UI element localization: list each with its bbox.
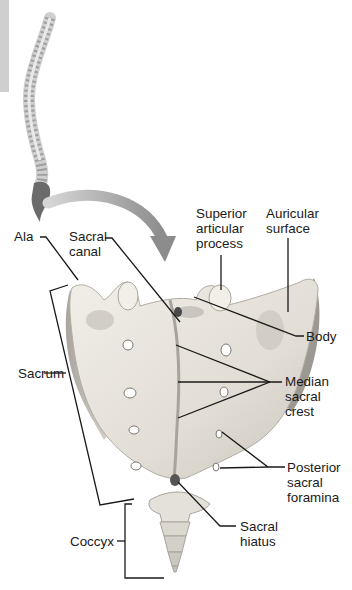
label-line: Sacral [69,229,107,244]
label-line: hiatus [240,534,278,549]
label-line: Superior [196,206,247,221]
label-sacrum: Sacrum [18,366,64,381]
coccyx-bone [149,492,210,572]
label-line: Sacrum [18,366,64,381]
label-line: Coccyx [70,534,114,549]
spine-thumbnail [29,18,50,222]
label-line: Posterior [287,460,341,475]
label-line: sacral [285,389,329,404]
label-ala-text: Ala [14,229,33,244]
label-median-sacral-crest: Median sacral crest [285,374,329,419]
label-line: Sacral [240,519,278,534]
label-line: Auricular [266,206,319,221]
label-line: crest [285,404,329,419]
label-line: Body [306,329,337,344]
label-sacral-hiatus: Sacral hiatus [240,519,278,549]
label-superior-articular-process: Superior articular process [196,206,247,251]
label-coccyx: Coccyx [70,534,114,549]
label-line: surface [266,221,319,236]
label-posterior-sacral-foramina: Posterior sacral foramina [287,460,341,505]
curved-arrow-icon [48,195,176,262]
label-auricular-surface: Auricular surface [266,206,319,236]
label-ala: Ala [14,229,33,244]
label-sacral-canal: Sacral canal [69,229,107,259]
label-line: sacral [287,475,341,490]
label-line: Median [285,374,329,389]
sacrum-diagram: Ala Sacral canal Superior articular proc… [0,0,352,590]
label-line: canal [69,244,107,259]
label-line: foramina [287,490,341,505]
label-body: Body [306,329,337,344]
label-line: process [196,236,247,251]
label-line: articular [196,221,247,236]
